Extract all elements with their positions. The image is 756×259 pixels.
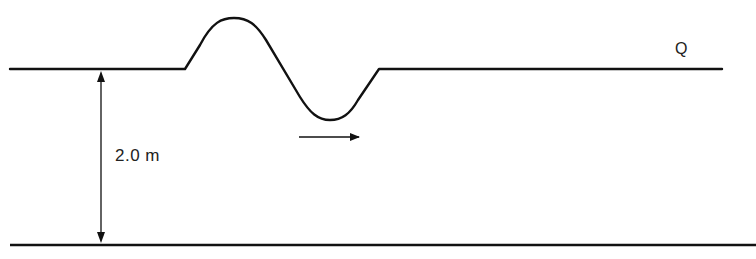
wave-diagram xyxy=(0,0,756,259)
depth-arrow-down-head-icon xyxy=(97,232,105,243)
depth-arrow-up-head-icon xyxy=(97,71,105,82)
water-surface-line xyxy=(10,18,722,120)
point-q-label: Q xyxy=(675,40,687,58)
depth-label: 2.0 m xyxy=(115,146,160,166)
